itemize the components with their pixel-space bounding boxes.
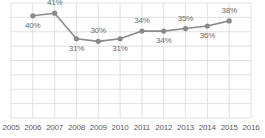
data-point-label: 35% (178, 14, 193, 23)
data-point-marker[interactable] (161, 29, 166, 34)
data-point-marker[interactable] (183, 26, 188, 31)
data-point-marker[interactable] (74, 36, 79, 41)
data-point-label: 31% (69, 44, 84, 53)
line-chart: 40%41%31%30%31%34%34%35%36%38% 200520062… (0, 0, 265, 138)
x-axis-tick-label: 2014 (199, 123, 216, 132)
x-axis-tick-label: 2006 (24, 123, 41, 132)
x-axis-tick-label: 2008 (68, 123, 85, 132)
chart-series (11, 3, 251, 118)
x-axis-tick-label: 2009 (90, 123, 107, 132)
data-point-label: 31% (112, 44, 127, 53)
x-axis-tick-label: 2013 (177, 123, 194, 132)
x-axis-tick-label: 2015 (221, 123, 238, 132)
data-point-marker[interactable] (117, 36, 122, 41)
x-axis-tick-label: 2010 (112, 123, 129, 132)
data-point-label: 38% (221, 6, 236, 15)
x-axis-tick-label: 2005 (3, 123, 20, 132)
x-axis-tick-label: 2011 (134, 123, 150, 132)
data-point-marker[interactable] (139, 29, 144, 34)
data-point-label: 41% (47, 0, 62, 7)
x-axis-tick-label: 2007 (46, 123, 63, 132)
data-point-marker[interactable] (227, 18, 232, 23)
data-point-label: 34% (134, 16, 149, 25)
x-axis-tick-label: 2012 (155, 123, 172, 132)
data-point-label: 34% (156, 36, 171, 45)
data-point-marker[interactable] (52, 11, 57, 16)
data-point-label: 36% (200, 31, 215, 40)
data-point-label: 30% (91, 26, 106, 35)
x-axis: 2005200620072008200920102011201220132014… (0, 123, 265, 137)
data-point-label: 40% (25, 21, 40, 30)
plot-area: 40%41%31%30%31%34%34%35%36%38% (11, 3, 251, 118)
data-point-marker[interactable] (96, 39, 101, 44)
x-axis-tick-label: 2016 (243, 123, 260, 132)
data-point-marker[interactable] (205, 23, 210, 28)
data-point-marker[interactable] (30, 13, 35, 18)
